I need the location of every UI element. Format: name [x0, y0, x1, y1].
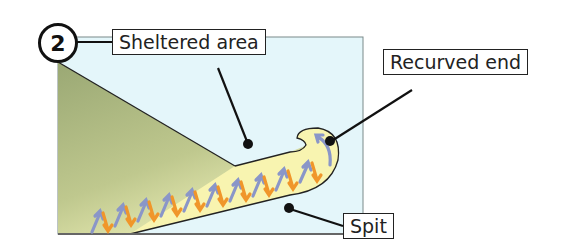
- label-sheltered-area: Sheltered area: [112, 29, 266, 55]
- label-spit: Spit: [343, 213, 394, 239]
- label-recurved-end: Recurved end: [383, 49, 528, 75]
- step-number-badge: 2: [38, 23, 78, 63]
- spit-diagram: [0, 0, 584, 248]
